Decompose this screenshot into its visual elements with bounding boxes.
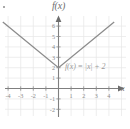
y-tick-label: 4 <box>52 43 55 50</box>
y-tick-label: 6 <box>52 22 55 29</box>
y-tick-label: 1 <box>52 74 55 81</box>
x-axis-title: x <box>121 84 125 93</box>
y-axis-title: f(x) <box>52 0 65 11</box>
x-tick-label: -1 <box>43 92 48 99</box>
y-tick-label: -2 <box>50 106 55 113</box>
equation-annotation: f(x) = |x| + 2 <box>65 62 105 71</box>
x-tick-label: 1 <box>70 92 73 99</box>
x-tick-label: -2 <box>31 92 36 99</box>
x-tick-label: -4 <box>6 92 11 99</box>
corner-bullet-icon <box>3 6 5 8</box>
graph-figure: f(x) <box>0 0 130 129</box>
x-tick-label: 3 <box>95 92 98 99</box>
x-tick-label: 2 <box>82 92 85 99</box>
y-tick-label: -1 <box>50 95 55 102</box>
x-tick-label: 4 <box>107 92 110 99</box>
x-tick-label: -3 <box>18 92 23 99</box>
y-tick-label: 3 <box>52 54 55 61</box>
y-tick-label: 5 <box>52 33 55 40</box>
